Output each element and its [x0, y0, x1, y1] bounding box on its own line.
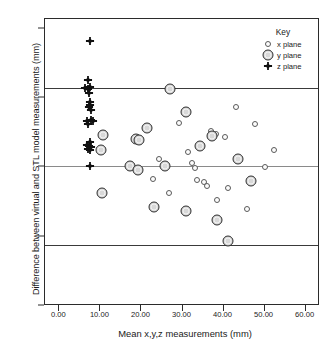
data-point-x-plane: [156, 156, 162, 162]
data-point-x-plane: [271, 147, 277, 153]
data-point-y-plane: [181, 206, 192, 217]
legend-marker-icon: [262, 60, 274, 72]
data-point-y-plane: [148, 202, 159, 213]
data-point-x-plane: [225, 185, 231, 191]
data-point-x-plane: [252, 121, 258, 127]
data-point-x-plane: [192, 165, 198, 171]
data-point-x-plane: [244, 206, 250, 212]
y-tick-mark: [38, 166, 44, 167]
data-point-y-plane: [212, 214, 223, 225]
y-axis-label: Difference between virtual and STL model…: [31, 29, 41, 309]
data-point-y-plane: [206, 130, 217, 141]
data-point-y-plane: [98, 130, 109, 141]
data-point-y-plane: [96, 145, 107, 156]
x-tick-label: 0.00: [51, 310, 66, 319]
data-point-y-plane: [165, 84, 176, 95]
x-tick-label: 40.00: [213, 310, 232, 319]
x-tick-label: 30.00: [172, 310, 191, 319]
data-point-z-plane: [83, 120, 92, 129]
scatter-plot-figure: Difference between virtual and STL model…: [0, 0, 327, 352]
data-point-z-plane: [85, 36, 94, 45]
data-point-z-plane: [84, 88, 93, 97]
y-tick-mark: [38, 305, 44, 306]
data-point-x-plane: [185, 149, 191, 155]
legend-item-z-plane: z plane: [262, 60, 302, 72]
y-tick-mark: [38, 97, 44, 98]
data-point-x-plane: [222, 134, 228, 140]
legend-label: z plane: [277, 62, 302, 71]
data-point-y-plane: [141, 123, 152, 134]
data-point-y-plane: [180, 106, 191, 117]
x-tick-label: 50.00: [254, 310, 273, 319]
data-point-y-plane: [263, 50, 274, 61]
data-point-x-plane: [265, 41, 271, 47]
data-point-x-plane: [214, 197, 220, 203]
data-point-y-plane: [233, 154, 244, 165]
y-tick-mark: [38, 235, 44, 236]
x-tick-label: 20.00: [131, 310, 150, 319]
data-point-x-plane: [166, 190, 172, 196]
data-point-z-plane: [85, 162, 94, 171]
data-point-z-plane: [264, 62, 273, 71]
data-point-x-plane: [150, 176, 156, 182]
data-point-y-plane: [160, 161, 171, 172]
legend-title: Key: [258, 27, 308, 37]
data-point-x-plane: [194, 177, 200, 183]
data-point-x-plane: [262, 164, 268, 170]
x-tick-label: 60.00: [295, 310, 314, 319]
data-point-y-plane: [246, 175, 257, 186]
data-point-y-plane: [194, 140, 205, 151]
y-tick-mark: [38, 27, 44, 28]
lower-limit-of-agreement: [45, 245, 318, 246]
data-point-y-plane: [222, 235, 233, 246]
data-point-z-plane: [86, 146, 95, 155]
data-point-y-plane: [132, 164, 143, 175]
data-point-x-plane: [233, 104, 239, 110]
data-point-y-plane: [133, 135, 144, 146]
legend-label: y plane: [277, 51, 302, 60]
legend-label: x plane: [277, 40, 302, 49]
data-point-y-plane: [96, 187, 107, 198]
x-tick-label: 10.00: [90, 310, 109, 319]
x-axis-label: Mean x,y,z measurements (mm): [50, 328, 320, 339]
data-point-x-plane: [176, 120, 182, 126]
data-point-x-plane: [204, 183, 210, 189]
data-point-z-plane: [86, 105, 95, 114]
